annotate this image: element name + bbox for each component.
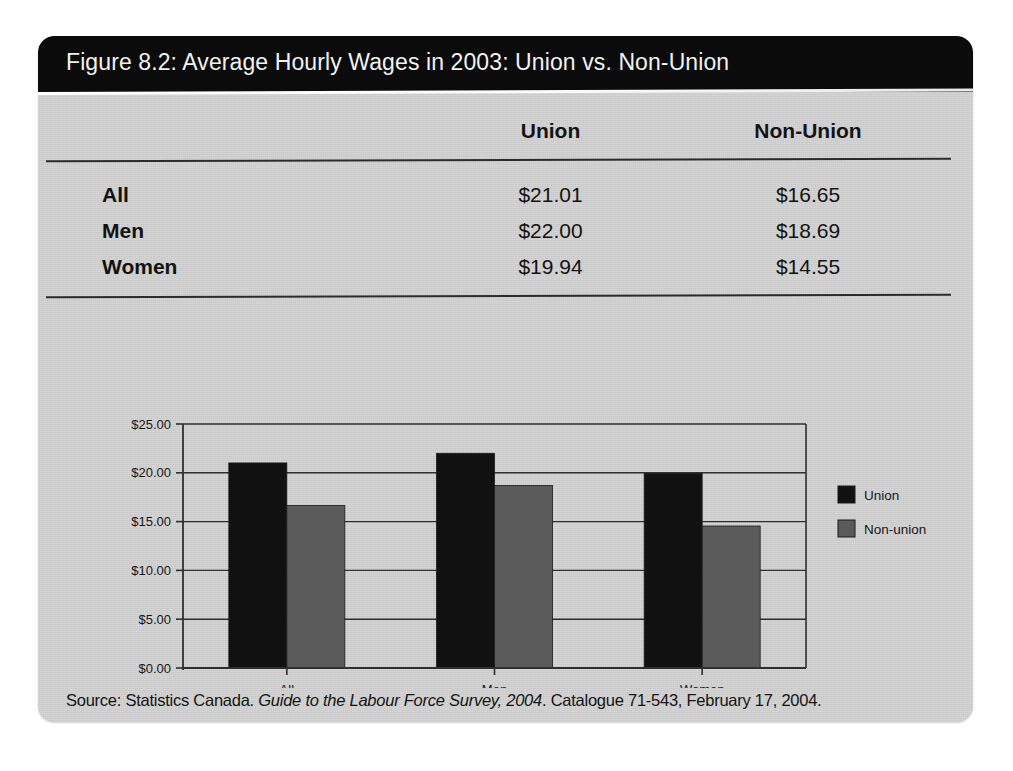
table-row: Women $19.94 $14.55 <box>38 249 973 285</box>
y-tick-label: $10.00 <box>131 563 171 578</box>
legend-swatch-union <box>838 486 855 503</box>
table-bottom-rule <box>46 294 951 299</box>
row-label-all: All <box>38 183 428 207</box>
cell-men-non-union: $18.69 <box>673 219 943 243</box>
y-tick-label: $0.00 <box>138 661 171 676</box>
table-row: Men $22.00 $18.69 <box>38 213 973 249</box>
y-tick-label: $15.00 <box>131 514 171 529</box>
table-body: All $21.01 $16.65 Men $22.00 $18.69 Wome… <box>38 161 973 285</box>
legend-label-non-union: Non-union <box>864 522 926 537</box>
cell-women-union: $19.94 <box>428 255 673 279</box>
source-note: Source: Statistics Canada. Guide to the … <box>66 691 821 710</box>
x-tick-label: All <box>280 682 295 688</box>
source-prefix: Source: Statistics Canada. <box>66 691 258 709</box>
row-label-women: Women <box>38 255 428 279</box>
bar-women-non-union <box>702 526 760 668</box>
cell-all-union: $21.01 <box>428 183 673 207</box>
row-label-men: Men <box>38 219 428 243</box>
chart-x-axis: AllMenWomen <box>280 668 725 688</box>
bar-all-union <box>229 463 287 668</box>
source-suffix: . Catalogue 71-543, February 17, 2004. <box>542 691 821 709</box>
wage-bar-chart: $0.00$5.00$10.00$15.00$20.00$25.00 AllMe… <box>38 368 973 688</box>
cell-women-non-union: $14.55 <box>673 255 943 279</box>
table-row: All $21.01 $16.65 <box>38 177 973 213</box>
legend-label-union: Union <box>864 488 899 503</box>
y-tick-label: $25.00 <box>131 417 171 432</box>
cell-men-union: $22.00 <box>428 219 673 243</box>
figure-title-bar: Figure 8.2: Average Hourly Wages in 2003… <box>38 36 973 92</box>
chart-bars <box>229 453 760 668</box>
chart-legend: UnionNon-union <box>838 486 926 537</box>
table-header-non-union: Non-Union <box>673 119 943 143</box>
wage-table: Union Non-Union All $21.01 $16.65 Men $2… <box>38 106 973 297</box>
x-tick-label: Men <box>482 682 507 688</box>
bar-women-union <box>644 473 702 668</box>
page-title: Figure 8.2: Average Hourly Wages in 2003… <box>66 49 729 76</box>
chart-canvas: $0.00$5.00$10.00$15.00$20.00$25.00 AllMe… <box>38 368 973 688</box>
table-header-row: Union Non-Union <box>38 106 973 156</box>
bar-men-union <box>437 453 495 668</box>
legend-swatch-non-union <box>838 520 855 537</box>
y-tick-label: $20.00 <box>131 465 171 480</box>
y-tick-label: $5.00 <box>138 612 171 627</box>
bar-all-non-union <box>287 505 345 668</box>
figure-panel: Figure 8.2: Average Hourly Wages in 2003… <box>38 36 973 722</box>
source-publication-title: Guide to the Labour Force Survey, 2004 <box>258 691 542 709</box>
table-header-union: Union <box>428 119 673 143</box>
bar-men-non-union <box>495 486 553 668</box>
cell-all-non-union: $16.65 <box>673 183 943 207</box>
chart-y-axis: $0.00$5.00$10.00$15.00$20.00$25.00 <box>131 417 183 676</box>
x-tick-label: Women <box>680 682 725 688</box>
